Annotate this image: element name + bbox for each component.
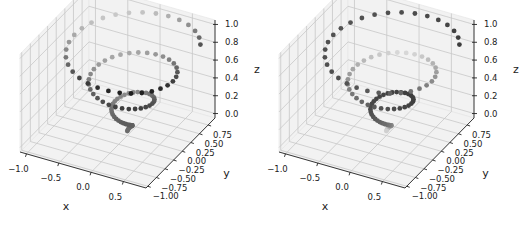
helix-point xyxy=(88,87,93,92)
y-tick xyxy=(407,186,410,187)
helix-point xyxy=(77,76,82,81)
y-tick-label: −0.50 xyxy=(170,174,196,184)
z-tick-label: 0.2 xyxy=(225,91,239,101)
helix-point xyxy=(96,62,101,67)
helix-point xyxy=(127,51,132,56)
helix-point xyxy=(347,72,352,77)
helix-point xyxy=(394,90,399,95)
x-tick-label: 0.5 xyxy=(368,192,382,202)
z-tick-label: 0.6 xyxy=(225,55,239,65)
helix-point xyxy=(382,122,387,127)
y-tick-label: 0.75 xyxy=(472,130,491,140)
helix-point xyxy=(372,12,377,17)
helix-point xyxy=(101,16,106,21)
x-tick-label: −0.5 xyxy=(299,173,320,183)
helix-point xyxy=(64,55,69,60)
y-tick xyxy=(165,169,168,170)
x-tick-label: 0.5 xyxy=(109,192,123,202)
helix-point xyxy=(113,105,118,110)
helix-point xyxy=(167,57,172,62)
x-tick xyxy=(349,172,350,175)
y-tick-label: −0.75 xyxy=(420,183,446,193)
helix-point xyxy=(143,105,148,110)
helix-point xyxy=(348,20,353,25)
helix-point xyxy=(64,47,69,52)
y-axis-label: y xyxy=(223,167,230,180)
y-tick xyxy=(450,143,453,144)
y-tick xyxy=(174,160,177,161)
helix-point xyxy=(385,107,390,112)
helix-point xyxy=(149,89,154,94)
helix-point xyxy=(412,52,417,57)
helix-point xyxy=(139,91,144,96)
helix-point xyxy=(408,89,413,94)
y-tick xyxy=(199,134,202,135)
z-tick-label: 0.4 xyxy=(484,73,498,83)
helix-point xyxy=(433,65,438,70)
y-tick xyxy=(441,151,444,152)
helix-point xyxy=(70,69,75,74)
helix-point xyxy=(360,16,365,21)
helix-point xyxy=(66,62,71,67)
y-tick-label: 0.00 xyxy=(446,156,465,166)
helix-point xyxy=(397,106,402,111)
z-tick-label: 0.0 xyxy=(225,109,239,119)
y-tick-label: −0.75 xyxy=(161,183,187,193)
y-axis-label: y xyxy=(482,167,489,180)
helix-point xyxy=(377,52,382,57)
x-tick-label: 0.0 xyxy=(335,182,349,192)
helix-point xyxy=(125,129,130,134)
helix-point xyxy=(91,92,96,97)
y-tick-label: 0.00 xyxy=(187,156,206,166)
subplot-left: −1.0−0.50.00.5−1.00−0.75−0.50−0.250.000.… xyxy=(0,0,260,237)
helix-point xyxy=(399,10,404,15)
helix-point xyxy=(193,29,198,34)
helix-point xyxy=(424,83,429,88)
helix-point xyxy=(331,33,336,38)
helix-point xyxy=(372,105,377,110)
helix-point xyxy=(436,18,441,23)
helix-point xyxy=(456,35,461,40)
helix-point xyxy=(186,23,191,28)
y-tick-label: −1.00 xyxy=(412,191,438,201)
y-tick-label: 0.50 xyxy=(463,139,482,149)
helix-point xyxy=(404,51,409,56)
helix-point xyxy=(95,85,100,90)
helix-point xyxy=(113,12,118,17)
x-tick-label: −1.0 xyxy=(267,164,288,174)
helix-point xyxy=(433,74,438,79)
helix-point xyxy=(430,61,435,66)
helix-point xyxy=(161,54,166,59)
x-axis-label: x xyxy=(322,200,329,213)
helix-point xyxy=(369,55,374,60)
helix-point xyxy=(106,89,111,94)
helix-point xyxy=(110,55,115,60)
helix-point xyxy=(72,33,77,38)
helix-point xyxy=(92,67,97,72)
helix-point xyxy=(388,91,393,96)
helix-point xyxy=(323,47,328,52)
helix-point xyxy=(402,105,407,110)
helix-point xyxy=(165,83,170,88)
helix-point xyxy=(413,11,418,16)
z-tick-label: 0.2 xyxy=(484,91,498,101)
x-tick-label: 0.0 xyxy=(76,182,90,192)
helix-point xyxy=(87,77,92,82)
helix-point xyxy=(126,107,131,112)
y-tick xyxy=(191,143,194,144)
helix-point xyxy=(127,10,132,15)
helix-point xyxy=(88,72,93,77)
helix-point xyxy=(174,65,179,70)
helix-point xyxy=(80,26,85,31)
helix-point xyxy=(344,81,349,86)
helix-point xyxy=(434,70,439,75)
helix-point xyxy=(350,92,355,97)
helix-point xyxy=(103,58,108,63)
helix-point xyxy=(135,90,140,95)
helix-point xyxy=(174,74,179,79)
helix-point xyxy=(133,107,138,112)
z-axis-label: z xyxy=(513,63,519,76)
helix-point xyxy=(351,67,356,72)
x-tick xyxy=(284,154,285,157)
y-tick xyxy=(424,169,427,170)
